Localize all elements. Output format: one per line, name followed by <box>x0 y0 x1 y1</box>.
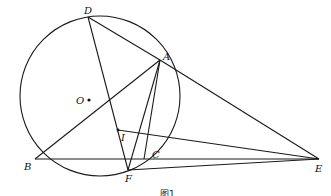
label-b: B <box>23 161 31 172</box>
segment-fe <box>128 159 319 170</box>
geometry-diagram: D A O I B C F E 图1 <box>0 0 331 196</box>
point-i-dot <box>117 129 120 132</box>
segment-da <box>88 17 160 60</box>
figure-caption: 图1 <box>160 189 175 196</box>
segment-ab <box>35 60 160 159</box>
segment-ac <box>144 60 160 159</box>
label-f: F <box>124 173 133 184</box>
point-o-dot <box>87 98 90 101</box>
label-c: C <box>152 149 160 160</box>
label-e: E <box>314 163 323 174</box>
segment-df <box>88 17 128 170</box>
segment-ie <box>118 130 319 159</box>
label-i: I <box>120 132 126 143</box>
label-d: D <box>83 5 92 16</box>
segment-ae <box>160 60 319 159</box>
label-o: O <box>76 95 84 106</box>
label-a: A <box>162 51 170 62</box>
